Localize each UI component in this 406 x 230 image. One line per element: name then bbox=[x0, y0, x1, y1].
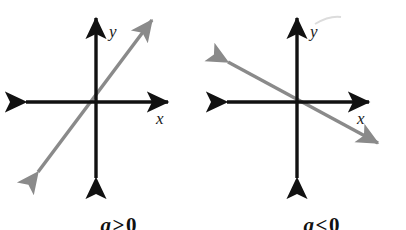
caption-value: 0 bbox=[329, 213, 340, 230]
caption-value: 0 bbox=[126, 213, 137, 230]
caption-relation: > bbox=[112, 213, 126, 230]
y-axis-label: y bbox=[107, 22, 117, 41]
caption-variable: a bbox=[101, 213, 112, 230]
scan-artifact-mark bbox=[315, 17, 341, 24]
x-axis-label: x bbox=[356, 109, 365, 128]
slope-sign-figure: y x a>0 y x bbox=[0, 0, 406, 230]
y-axis-label: y bbox=[308, 22, 318, 41]
x-axis-label: x bbox=[155, 109, 164, 128]
caption-negative-slope: a<0 bbox=[203, 188, 406, 230]
panel-positive-slope: y x a>0 bbox=[0, 0, 203, 230]
caption-positive-slope: a>0 bbox=[0, 188, 203, 230]
caption-relation: < bbox=[315, 213, 329, 230]
caption-variable: a bbox=[304, 213, 315, 230]
panel-negative-slope: y x a<0 bbox=[203, 0, 406, 230]
